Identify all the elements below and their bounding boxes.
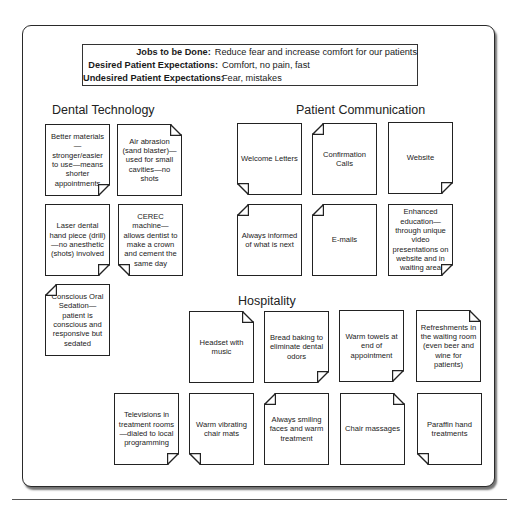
folded-corner-icon bbox=[312, 123, 324, 135]
sticky-note-text: Always informed of what is next bbox=[241, 231, 298, 250]
folded-corner-icon bbox=[237, 204, 249, 216]
sticky-note: Headset with music bbox=[189, 311, 254, 383]
sticky-note: Bread baking to eliminate dental odors bbox=[264, 311, 329, 383]
section-title-hospitality: Hospitality bbox=[238, 294, 296, 308]
sticky-note: Paraffin hand treatments bbox=[417, 393, 482, 465]
sticky-note: Conscious Oral Sedation—patient is consc… bbox=[45, 284, 110, 356]
summary-row-undesired: Undesired Patient Expectations: Fear, mi… bbox=[83, 72, 417, 85]
sticky-note-text: Televisions in treatment rooms—dialed to… bbox=[118, 410, 175, 447]
sticky-note: Confirmation Calls bbox=[312, 123, 377, 195]
summary-value: Comfort, no pain, fast bbox=[222, 59, 310, 72]
folded-corner-icon bbox=[98, 264, 110, 276]
folded-corner-icon bbox=[417, 453, 429, 465]
folded-corner-icon bbox=[317, 371, 329, 383]
sticky-note-text: Air abrasion (sand blaster)—used for sma… bbox=[121, 137, 178, 183]
summary-box: Jobs to be Done: Reduce fear and increas… bbox=[82, 44, 418, 86]
sticky-note-text: Warm towels at end of appointment bbox=[343, 332, 400, 360]
sticky-note-text: Refreshments in the waiting room (even b… bbox=[420, 323, 477, 369]
sticky-note-text: Bread baking to eliminate dental odors bbox=[268, 333, 325, 361]
sticky-note: Website bbox=[388, 122, 453, 194]
sticky-note-text: Paraffin hand treatments bbox=[421, 420, 478, 439]
folded-corner-icon bbox=[441, 182, 453, 194]
summary-label: Undesired Patient Expectations: bbox=[83, 72, 222, 85]
folded-corner-icon bbox=[237, 183, 249, 195]
folded-corner-icon bbox=[167, 453, 179, 465]
sticky-note-text: Laser dental hand piece (drill)—no anest… bbox=[49, 221, 106, 258]
sticky-note: Laser dental hand piece (drill)—no anest… bbox=[45, 204, 110, 276]
sticky-note: Welcome Letters bbox=[237, 123, 302, 195]
sticky-note: CEREC machine—allows dentist to make a c… bbox=[118, 204, 183, 276]
summary-row-jobs: Jobs to be Done: Reduce fear and increas… bbox=[83, 46, 417, 59]
folded-corner-icon bbox=[98, 184, 110, 196]
folded-corner-icon bbox=[441, 264, 453, 276]
sticky-note-text: E-mails bbox=[332, 235, 357, 244]
folded-corner-icon bbox=[45, 284, 57, 296]
folded-corner-icon bbox=[189, 453, 201, 465]
sticky-note: Warm towels at end of appointment bbox=[339, 310, 404, 382]
sticky-note-text: Conscious Oral Sedation—patient is consc… bbox=[49, 292, 106, 348]
section-title-dental-technology: Dental Technology bbox=[52, 103, 155, 117]
section-title-patient-communication: Patient Communication bbox=[296, 103, 425, 117]
folded-corner-icon bbox=[312, 204, 324, 216]
sticky-note: Always informed of what is next bbox=[237, 204, 302, 276]
sticky-note-text: Website bbox=[407, 153, 434, 162]
sticky-note-text: Warm vibrating chair mats bbox=[193, 420, 250, 439]
sticky-note-text: Confirmation Calls bbox=[316, 150, 373, 169]
sticky-note: Better materials—stronger/easier to use—… bbox=[45, 124, 110, 196]
sticky-note: Enhanced education—through unique video … bbox=[388, 204, 453, 276]
summary-value: Reduce fear and increase comfort for our… bbox=[215, 46, 417, 59]
folded-corner-icon bbox=[393, 393, 405, 405]
divider-line bbox=[12, 499, 507, 500]
summary-row-desired: Desired Patient Expectations: Comfort, n… bbox=[83, 59, 417, 72]
sticky-note: Warm vibrating chair mats bbox=[189, 393, 254, 465]
sticky-note-text: Enhanced education—through unique video … bbox=[392, 207, 449, 272]
sticky-note-text: Chair massages bbox=[345, 424, 400, 433]
sticky-note-text: Welcome Letters bbox=[241, 154, 298, 163]
folded-corner-icon bbox=[392, 370, 404, 382]
sticky-note-text: Always smiling faces and warm treatment bbox=[268, 415, 325, 443]
sticky-note-text: Better materials—stronger/easier to use—… bbox=[49, 132, 106, 188]
folded-corner-icon bbox=[242, 311, 254, 323]
summary-value: Fear, mistakes bbox=[222, 72, 282, 85]
sticky-note-text: Headset with music bbox=[193, 338, 250, 357]
folded-corner-icon bbox=[469, 310, 481, 322]
sticky-note: Always smiling faces and warm treatment bbox=[264, 393, 329, 465]
summary-label: Jobs to be Done: bbox=[83, 46, 215, 59]
sticky-note: E-mails bbox=[312, 204, 377, 276]
sticky-note-text: CEREC machine—allows dentist to make a c… bbox=[122, 212, 179, 268]
sticky-note: Refreshments in the waiting room (even b… bbox=[416, 310, 481, 382]
folded-corner-icon bbox=[264, 393, 276, 405]
sticky-note: Chair massages bbox=[340, 393, 405, 465]
sticky-note: Air abrasion (sand blaster)—used for sma… bbox=[117, 124, 182, 196]
sticky-note: Televisions in treatment rooms—dialed to… bbox=[114, 393, 179, 465]
summary-label: Desired Patient Expectations: bbox=[83, 59, 222, 72]
folded-corner-icon bbox=[170, 124, 182, 136]
folded-corner-icon bbox=[118, 264, 130, 276]
